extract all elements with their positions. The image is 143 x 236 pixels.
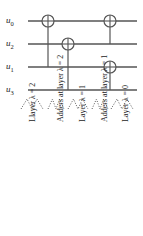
wire-label-index: 3 <box>11 89 14 96</box>
label-adders-1: Adders at layer λ = 1 <box>101 55 109 122</box>
label-layer-2: Llayer λ = 2 <box>29 83 37 122</box>
label-layer-1: Layer λ = 1 <box>79 85 87 122</box>
wire-label-w0: u0 <box>6 16 14 27</box>
wires-group <box>28 21 137 90</box>
wire-label-index: 1 <box>11 66 14 73</box>
label-layer-0: Layer λ = 0 <box>122 85 130 122</box>
wire-label-index: 2 <box>11 43 14 50</box>
braces-group <box>21 99 133 109</box>
wire-label-w2: u1 <box>6 62 14 73</box>
wire-label-index: 0 <box>11 20 14 27</box>
label-adders-2: Adders at layer λ = 2 <box>57 55 65 122</box>
wire-label-w1: u2 <box>6 39 14 50</box>
wire-label-w3: u3 <box>6 85 14 96</box>
